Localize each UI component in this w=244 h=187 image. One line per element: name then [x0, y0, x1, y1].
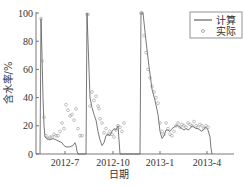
- data-point-actual: [143, 34, 146, 37]
- data-point-actual: [193, 120, 196, 123]
- data-point-actual: [89, 105, 92, 108]
- data-point-actual: [91, 91, 94, 94]
- data-point-actual: [71, 113, 74, 116]
- data-point-actual: [171, 134, 174, 137]
- data-point-actual: [57, 134, 60, 137]
- data-point-actual: [97, 105, 100, 108]
- data-point-actual: [109, 130, 112, 133]
- x-tick-label: 2012-10: [96, 157, 129, 168]
- data-point-actual: [207, 126, 210, 129]
- data-point-actual: [69, 115, 72, 118]
- data-point-actual: [155, 96, 158, 99]
- data-point-actual: [177, 122, 180, 125]
- data-point-actual: [95, 95, 98, 98]
- data-point-actual: [101, 122, 104, 125]
- data-point-actual: [73, 119, 76, 122]
- data-point-actual: [167, 127, 170, 130]
- series-line-calc: [40, 13, 212, 154]
- data-point-actual: [183, 124, 186, 127]
- data-point-actual: [165, 122, 168, 125]
- data-point-actual: [189, 123, 192, 126]
- legend-label-actual: 实际: [216, 25, 236, 37]
- data-point-actual: [173, 130, 176, 133]
- data-point-actual: [187, 122, 190, 125]
- data-point-actual: [65, 103, 68, 106]
- y-tick-label: 40: [23, 92, 33, 103]
- data-point-actual: [93, 99, 96, 102]
- y-tick-label: 100: [18, 8, 33, 19]
- legend-label-calc: 计算: [216, 14, 236, 26]
- y-tick-label: 0: [28, 149, 33, 160]
- plot-area: [40, 12, 212, 154]
- data-point-actual: [113, 136, 116, 139]
- y-tick-label: 80: [23, 36, 33, 47]
- data-point-actual: [105, 127, 108, 130]
- x-axis-title: 日期: [109, 169, 129, 180]
- data-point-actual: [123, 122, 126, 125]
- x-tick-label: 2013-1: [146, 157, 174, 168]
- data-point-actual: [197, 126, 200, 129]
- data-point-actual: [51, 136, 54, 139]
- data-point-actual: [181, 123, 184, 126]
- legend: 计算 实际: [190, 12, 242, 38]
- y-tick-label: 60: [23, 64, 33, 75]
- data-point-actual: [67, 109, 70, 112]
- x-tick-label: 2013-4: [193, 157, 221, 168]
- data-point-actual: [199, 123, 202, 126]
- x-tick-label: 2012-7: [51, 157, 79, 168]
- data-point-actual: [81, 134, 84, 137]
- data-point-actual: [77, 127, 80, 130]
- y-tick-label: 20: [23, 120, 33, 131]
- data-point-actual: [59, 130, 62, 133]
- data-point-actual: [99, 117, 102, 120]
- data-point-actual: [161, 130, 164, 133]
- x-ticks: 2012-72012-102013-12013-4: [51, 151, 221, 168]
- data-point-actual: [157, 102, 160, 105]
- data-point-actual: [169, 133, 172, 136]
- data-point-actual: [121, 130, 124, 133]
- data-point-actual: [201, 124, 204, 127]
- data-point-actual: [61, 122, 64, 125]
- data-point-actual: [195, 124, 198, 127]
- data-point-actual: [53, 133, 56, 136]
- data-point-actual: [63, 127, 66, 130]
- data-point-actual: [103, 131, 106, 134]
- data-point-actual: [119, 126, 122, 129]
- chart-canvas: 020406080100 2012-72012-102013-12013-4 含…: [0, 0, 244, 187]
- data-point-actual: [75, 108, 78, 111]
- data-point-actual: [98, 108, 101, 111]
- y-axis-title: 含水率/%: [2, 62, 14, 105]
